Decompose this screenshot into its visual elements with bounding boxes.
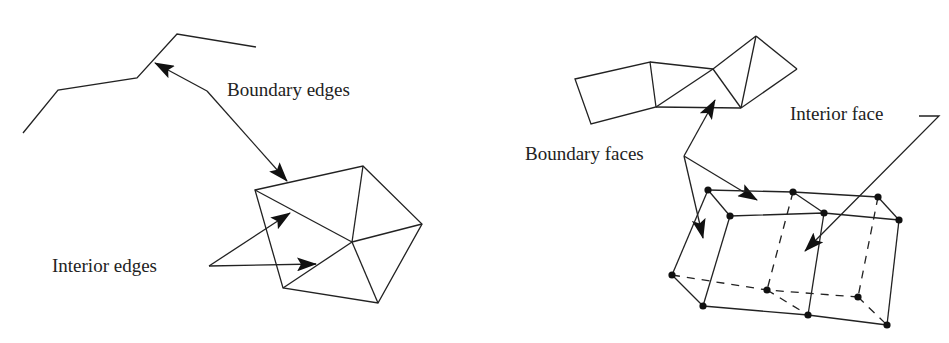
interior-edges-label: Interior edges — [52, 255, 157, 276]
triangulated-pentagon — [255, 166, 422, 303]
boundary-faces-label: Boundary faces — [525, 143, 644, 164]
interior-face-label: Interior face — [790, 103, 883, 124]
mesh-diagram: Boundary edges Interior edges Boundary f… — [0, 0, 949, 343]
hex-mesh-box — [668, 186, 902, 328]
interior-edges-arrows — [209, 213, 316, 266]
mesh-vertices — [668, 186, 902, 328]
boundary-faces-arrows — [684, 100, 757, 238]
boundary-polyline — [23, 34, 256, 133]
surface-strip — [575, 36, 797, 124]
boundary-edges-label: Boundary edges — [227, 79, 350, 100]
interior-face-arrow — [805, 116, 939, 251]
